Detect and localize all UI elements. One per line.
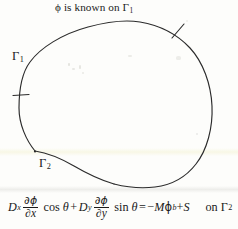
robin-boundary-condition-equation: Dx ∂ϕ ∂x cos θ + Dy ∂ϕ ∂y sin θ = − Mϕb …	[8, 195, 232, 220]
gamma-2-label: Γ2	[39, 157, 51, 172]
gamma-1-subscript: 1	[19, 55, 24, 64]
eq-condition-subscript: 2	[228, 203, 232, 212]
eq-partial-phi-numerator: ∂ϕ	[23, 195, 38, 207]
eq-source-term-s: S	[183, 200, 189, 215]
eq-cos: cos	[44, 200, 60, 215]
eq-sin: sin	[114, 200, 128, 215]
caption-phi-known-subscript: 1	[129, 6, 133, 15]
boundary-condition-figure: ϕ is known on Γ1 Γ1 Γ2 Dx ∂ϕ ∂x cos θ + …	[0, 0, 238, 229]
eq-plus-2: +	[177, 200, 184, 215]
eq-condition-on-gamma2: on Γ	[205, 200, 227, 215]
gamma-1-label: Γ1	[12, 50, 24, 65]
eq-coefficient-dy: D	[79, 200, 88, 215]
eq-plus-1: +	[69, 200, 79, 215]
eq-partial-phi-partial-y: ∂ϕ ∂y	[94, 195, 109, 220]
boundary-tick-left	[13, 95, 29, 96]
eq-coefficient-dx-subscript: x	[17, 203, 21, 212]
eq-coefficient-dx: D	[8, 200, 17, 215]
eq-partial-phi-partial-x: ∂ϕ ∂x	[23, 195, 38, 220]
eq-coefficient-dy-subscript: y	[88, 203, 92, 212]
boundary-tick-upper-right	[172, 24, 184, 38]
caption-phi-known: ϕ is known on Γ1	[55, 2, 133, 14]
eq-m-coefficient: M	[154, 200, 164, 215]
gamma-2-subscript: 2	[46, 162, 51, 171]
boundary-junction-marker	[34, 150, 36, 152]
caption-phi-known-text: ϕ is known on Γ	[55, 1, 129, 13]
eq-partial-phi-numerator-2: ∂ϕ	[94, 195, 109, 207]
eq-phi-b: ϕ	[164, 200, 172, 214]
eq-partial-x-denominator: ∂x	[24, 208, 37, 220]
eq-partial-y-denominator: ∂y	[95, 208, 108, 220]
eq-equals: =	[138, 200, 148, 215]
